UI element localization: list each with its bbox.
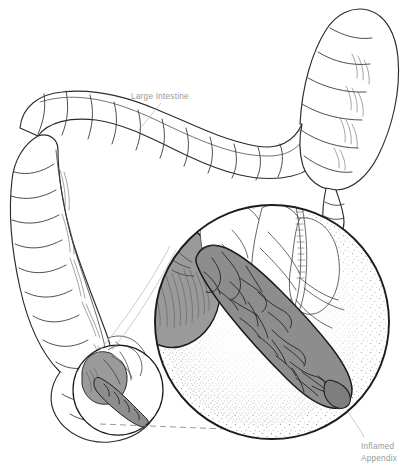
ascending-colon — [300, 9, 399, 236]
label-inflamed-appendix-group: Inflamed Appendix — [348, 412, 397, 463]
magnified-detail-circle — [135, 202, 389, 439]
transverse-colon — [20, 91, 334, 180]
leader-inflamed-appendix — [348, 412, 364, 437]
descending-colon — [10, 135, 111, 386]
label-large-intestine: Large Intestine — [131, 92, 189, 101]
label-inflamed-appendix-line1: Inflamed — [361, 442, 395, 451]
label-inflamed-appendix-line2: Appendix — [361, 454, 397, 463]
appendicitis-diagram: Large Intestine Inflamed Appendix — [0, 0, 415, 476]
illustration-root: Large Intestine Inflamed Appendix — [0, 0, 415, 476]
